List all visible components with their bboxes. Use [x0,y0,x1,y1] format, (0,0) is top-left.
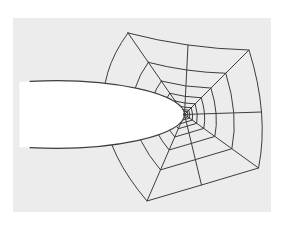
page-background [0,0,288,227]
web-mesh-diagram [0,0,288,227]
web-center-dot [183,113,186,116]
